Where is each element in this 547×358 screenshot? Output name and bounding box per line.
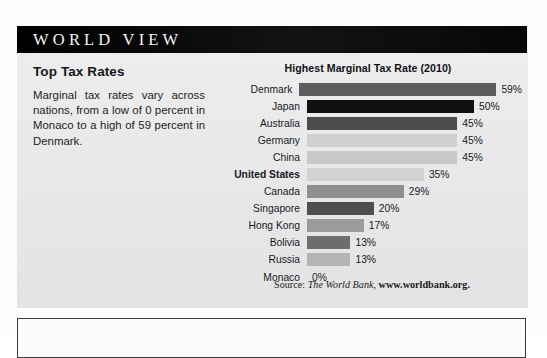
source-publication: The World Bank, [308, 279, 376, 290]
bar-row: China45% [222, 150, 522, 164]
bar-row: Germany45% [222, 133, 522, 147]
bar-fill [307, 168, 424, 181]
bar-fill [307, 134, 457, 147]
bar-fill [307, 202, 374, 215]
bar-value-label: 29% [404, 186, 430, 197]
bar-track: 45% [307, 117, 522, 130]
bar-row: Hong Kong17% [222, 219, 522, 233]
article-heading: Top Tax Rates [33, 64, 219, 79]
bar-value-label: 45% [457, 118, 483, 129]
bar-row: Russia13% [222, 253, 522, 267]
bar-track: 59% [299, 83, 522, 96]
bar-track: 50% [307, 100, 522, 113]
bar-fill [307, 117, 457, 130]
bar-fill [307, 236, 350, 249]
bar-value-label: 13% [350, 254, 376, 265]
source-url: www.worldbank.org. [379, 279, 470, 290]
bar-value-label: 35% [424, 169, 450, 180]
bar-fill [299, 83, 496, 96]
bar-fill [307, 100, 474, 113]
bar-track: 35% [307, 168, 522, 181]
bar-fill [307, 219, 364, 232]
bar-row: Denmark59% [222, 82, 522, 96]
world-view-panel: WORLD VIEW Top Tax Rates Marginal tax ra… [17, 26, 528, 308]
bar-fill [307, 185, 404, 198]
bar-value-label: 45% [457, 152, 483, 163]
bar-value-label: 17% [364, 220, 390, 231]
world-view-banner: WORLD VIEW [17, 26, 527, 53]
bar-category-label: China [222, 152, 307, 163]
bar-rows-container: Denmark59%Japan50%Australia45%Germany45%… [222, 82, 522, 284]
bar-category-label: Japan [222, 101, 307, 112]
article-body-text: Marginal tax rates vary across nations, … [33, 88, 205, 149]
bar-row: Japan50% [222, 99, 522, 113]
source-citation: Source: The World Bank, www.worldbank.or… [222, 279, 522, 290]
bar-value-label: 59% [496, 84, 522, 95]
bar-category-label: Canada [222, 186, 307, 197]
article-column: Top Tax Rates Marginal tax rates vary ac… [33, 64, 219, 149]
bar-track: 17% [307, 219, 522, 232]
bar-category-label: Russia [222, 254, 307, 265]
chart-title: Highest Marginal Tax Rate (2010) [222, 62, 514, 74]
bar-row: United States35% [222, 167, 522, 181]
bar-track: 13% [307, 253, 522, 266]
bar-track: 45% [307, 151, 522, 164]
bar-row: Singapore20% [222, 202, 522, 216]
bar-row: Canada29% [222, 185, 522, 199]
bar-track: 20% [307, 202, 522, 215]
banner-title: WORLD VIEW [33, 30, 182, 50]
bar-track: 29% [307, 185, 522, 198]
source-label: Source: [274, 279, 305, 290]
bar-fill [307, 151, 457, 164]
tax-rate-bar-chart: Highest Marginal Tax Rate (2010) Denmark… [222, 62, 522, 287]
bar-category-label: Singapore [222, 203, 307, 214]
bar-value-label: 20% [374, 203, 400, 214]
bar-value-label: 45% [457, 135, 483, 146]
bar-track: 13% [307, 236, 522, 249]
bar-category-label: United States [222, 169, 307, 180]
bar-category-label: Denmark [222, 84, 299, 95]
bar-row: Australia45% [222, 116, 522, 130]
bar-category-label: Bolivia [222, 237, 307, 248]
bar-row: Bolivia13% [222, 236, 522, 250]
bar-category-label: Germany [222, 135, 307, 146]
bar-value-label: 13% [350, 237, 376, 248]
bottom-content-box [17, 318, 526, 358]
bar-value-label: 50% [474, 101, 500, 112]
bar-category-label: Hong Kong [222, 220, 307, 231]
bar-fill [307, 253, 350, 266]
bar-track: 45% [307, 134, 522, 147]
bar-category-label: Australia [222, 118, 307, 129]
